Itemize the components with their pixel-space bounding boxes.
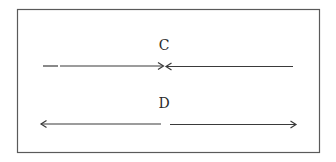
diagram-svg: [0, 0, 336, 162]
diagram-canvas: C D: [0, 0, 336, 162]
figure-d-label: D: [158, 96, 169, 110]
figure-c-arrows: [43, 63, 293, 71]
figure-c-label: C: [159, 38, 170, 52]
figure-d-arrows: [41, 121, 296, 129]
diagram-frame: [18, 10, 320, 153]
